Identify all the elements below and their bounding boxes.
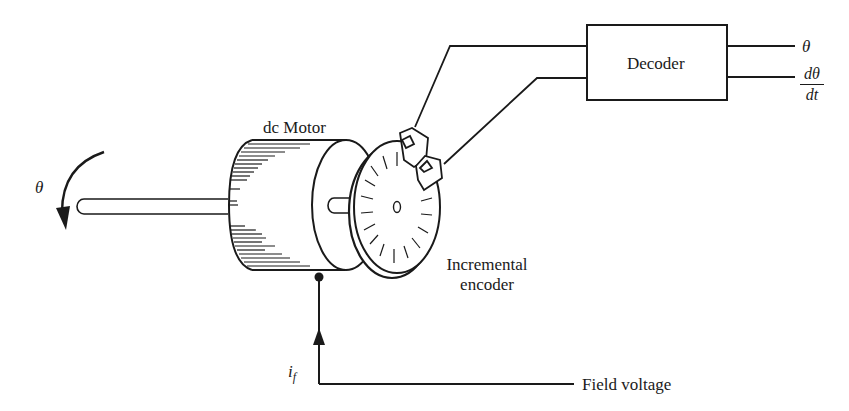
encoder-label-line1: Incremental xyxy=(437,255,537,275)
field-voltage-label: Field voltage xyxy=(582,376,671,393)
motor-shaft xyxy=(77,199,228,214)
field-current-label: if xyxy=(288,363,296,383)
encoder-label-line2: encoder xyxy=(437,275,537,295)
field-current-subscript: f xyxy=(293,370,296,384)
signal-wires xyxy=(415,46,587,164)
fraction-bar xyxy=(800,84,824,85)
shaft-angle-label: θ xyxy=(35,179,43,196)
output-rate-numerator: dθ xyxy=(800,66,824,82)
output-rate-label: dθ dt xyxy=(800,66,824,103)
diagram-canvas: θ dc Motor Decoder θ dθ dt Incremental e… xyxy=(0,0,849,411)
decoder-label: Decoder xyxy=(627,55,685,72)
decoder-output-lines xyxy=(727,46,795,77)
diagram-graphics xyxy=(0,0,849,411)
dc-motor-label: dc Motor xyxy=(263,119,326,136)
field-current-arrow-icon xyxy=(313,328,325,345)
incremental-encoder-label: Incremental encoder xyxy=(437,255,537,295)
rotation-arrow-icon xyxy=(56,152,104,230)
field-voltage-wire xyxy=(319,281,574,384)
output-angle-label: θ xyxy=(802,38,810,55)
output-rate-denominator: dt xyxy=(800,87,824,103)
